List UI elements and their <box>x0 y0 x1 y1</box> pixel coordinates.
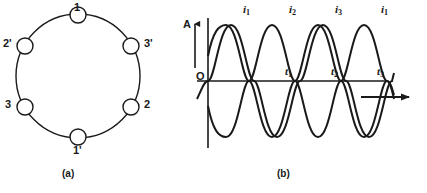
coil-slot-1p <box>70 129 86 145</box>
panel-stator-cross-section: 1 2' 3 1' 2 3' <box>0 0 200 193</box>
caption-panel-a: (a) <box>62 168 74 179</box>
time-marker-t1: t1 <box>285 66 292 77</box>
stator-bore-circle <box>16 14 140 138</box>
wave-label-i1-second: i1 <box>381 4 388 15</box>
figure-root: 1 2' 3 1' 2 3' <box>0 0 427 193</box>
origin-label: O <box>196 71 205 82</box>
coil-slot-2 <box>123 99 139 115</box>
amplitude-axis-label: A <box>183 19 191 30</box>
wave-label-i2: i2 <box>289 4 296 15</box>
wave-label-i3: i3 <box>335 4 342 15</box>
time-marker-t2: t2 <box>331 66 338 77</box>
time-marker-t3: t3 <box>377 66 384 77</box>
wave-label-i1-first: i1 <box>243 4 250 15</box>
coil-slot-3p <box>123 38 139 54</box>
slot-label-3-prime: 3' <box>144 38 153 49</box>
slot-label-2-prime: 2' <box>3 38 12 49</box>
slot-label-3: 3 <box>5 99 11 110</box>
panel-three-phase-waveform: A O i1 i2 i3 i1 t1 t2 t3 <box>175 0 427 193</box>
waveform-diagram-svg <box>175 0 427 193</box>
caption-panel-b: (b) <box>277 168 290 179</box>
slot-label-1: 1 <box>74 2 80 13</box>
coil-slot-2p <box>17 38 33 54</box>
slot-label-1-prime: 1' <box>73 145 82 156</box>
stator-diagram-svg <box>0 0 200 193</box>
slot-label-2: 2 <box>144 99 150 110</box>
coil-slot-3 <box>17 99 33 115</box>
